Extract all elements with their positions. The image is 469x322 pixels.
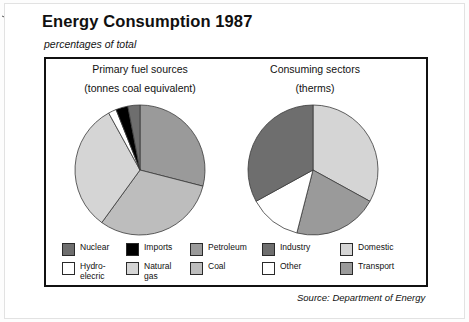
swatch-imports (126, 243, 139, 256)
left-chart-subtitle: (tonnes coal equivalent) (65, 82, 215, 94)
legend-label: Natural gas (144, 262, 171, 281)
legend-label: Transport (358, 262, 394, 272)
legend-item-natural-gas[interactable]: Natural gas (126, 262, 190, 281)
swatch-transport (340, 262, 353, 275)
legend-item-imports[interactable]: Imports (126, 243, 190, 256)
legend-item-transport[interactable]: Transport (340, 262, 418, 275)
swatch-natural-gas (126, 262, 139, 275)
annotation-arc-inner (2, 16, 44, 116)
legend-label: Imports (144, 243, 172, 253)
swatch-petroleum (190, 243, 203, 256)
legend-item-petroleum[interactable]: Petroleum (190, 243, 254, 256)
legend-label: Petroleum (208, 243, 247, 253)
legend-label: Coal (208, 262, 225, 272)
swatch-industry (262, 243, 275, 256)
legend-row: Hydro- elecric Natural gas Coal (62, 262, 254, 281)
right-pie-chart (246, 103, 380, 237)
legend-item-other[interactable]: Other (262, 262, 340, 275)
source-note: Source: Department of Energy (297, 292, 425, 303)
legend-row: Other Transport (262, 262, 418, 275)
legend-label: Hydro- elecric (80, 262, 106, 281)
swatch-domestic (340, 243, 353, 256)
swatch-nuclear (62, 243, 75, 256)
legend-item-hydro-electric[interactable]: Hydro- elecric (62, 262, 126, 281)
left-pie-chart (73, 103, 207, 237)
legend-row: Nuclear Imports Petroleum (62, 243, 254, 256)
legend-label: Nuclear (80, 243, 109, 253)
page-subtitle: percentages of total (44, 38, 136, 50)
right-chart-legend: Industry Domestic Other Transport (262, 243, 418, 281)
chart-page: Energy Consumption 1987 percentages of t… (0, 0, 469, 322)
left-chart-legend: Nuclear Imports Petroleum Hydro- elecric… (62, 243, 254, 287)
swatch-coal (190, 262, 203, 275)
left-chart-title: Primary fuel sources (65, 63, 215, 75)
right-chart-subtitle: (therms) (240, 82, 390, 94)
swatch-other (262, 262, 275, 275)
swatch-hydro-electric (62, 262, 75, 275)
page-title: Energy Consumption 1987 (42, 12, 252, 31)
legend-label: Industry (280, 243, 310, 253)
legend-item-domestic[interactable]: Domestic (340, 243, 418, 256)
legend-item-nuclear[interactable]: Nuclear (62, 243, 126, 256)
right-chart-title: Consuming sectors (240, 63, 390, 75)
legend-item-industry[interactable]: Industry (262, 243, 340, 256)
legend-item-coal[interactable]: Coal (190, 262, 254, 275)
legend-label: Other (280, 262, 301, 272)
legend-label: Domestic (358, 243, 393, 253)
legend-row: Industry Domestic (262, 243, 418, 256)
